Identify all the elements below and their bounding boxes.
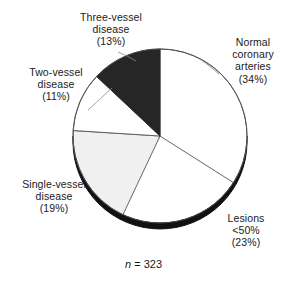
pie-label-line: <50% bbox=[210, 224, 282, 236]
pie-label-line: Three-vessel bbox=[56, 11, 166, 23]
pie-label-percent: (19%) bbox=[2, 202, 106, 214]
pie-label-normal-coronary-arteries: Normal coronary arteries (34%) bbox=[222, 36, 284, 85]
pie-label-line: disease bbox=[56, 23, 166, 35]
pie-label-percent: (11%) bbox=[10, 90, 102, 102]
sample-size-caption: n = 323 bbox=[0, 258, 287, 270]
pie-label-line: Single-vessel bbox=[2, 178, 106, 190]
pie-label-line: disease bbox=[10, 78, 102, 90]
pie-label-three-vessel-disease: Three-vessel disease (13%) bbox=[56, 11, 166, 48]
pie-label-line: coronary bbox=[222, 48, 284, 60]
sample-size-value: = 323 bbox=[131, 258, 162, 270]
pie-label-line: Two-vessel bbox=[10, 66, 102, 78]
pie-chart-figure: Three-vessel disease (13%) Normal corona… bbox=[0, 0, 287, 283]
pie-label-percent: (13%) bbox=[56, 35, 166, 47]
pie-label-line: arteries bbox=[222, 60, 284, 72]
pie-label-line: Lesions bbox=[210, 212, 282, 224]
pie-label-two-vessel-disease: Two-vessel disease (11%) bbox=[10, 66, 102, 103]
pie-label-line: Normal bbox=[222, 36, 284, 48]
pie-label-percent: (23%) bbox=[210, 236, 282, 248]
pie-label-percent: (34%) bbox=[222, 73, 284, 85]
pie-label-line: disease bbox=[2, 190, 106, 202]
pie-label-single-vessel-disease: Single-vessel disease (19%) bbox=[2, 178, 106, 215]
pie-label-lesions-under-50: Lesions <50% (23%) bbox=[210, 212, 282, 249]
